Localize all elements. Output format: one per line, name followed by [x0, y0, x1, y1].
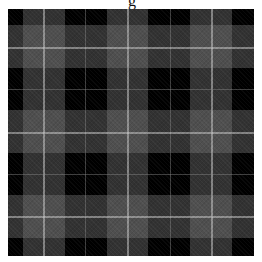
weave-texture	[8, 9, 254, 256]
tartan-pattern	[8, 9, 254, 256]
